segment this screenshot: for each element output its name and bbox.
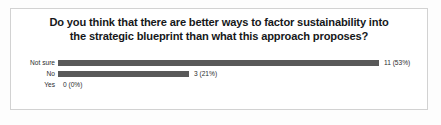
bar-track-no: 3 (21%) — [58, 68, 427, 79]
bar-value-not-sure: 11 (53%) — [384, 57, 410, 68]
bar-value-no: 3 (21%) — [194, 68, 217, 79]
bar-row: Yes 0 (0%) — [11, 79, 427, 90]
category-label-yes: Yes — [11, 79, 55, 90]
bar-no — [58, 71, 189, 77]
bar-row: Not sure 11 (53%) — [11, 57, 427, 68]
bar-track-not-sure: 11 (53%) — [58, 57, 427, 68]
chart-title-line-2: the strategic blueprint than what this a… — [23, 30, 415, 44]
chart-title: Do you think that there are better ways … — [23, 16, 415, 43]
category-label-not-sure: Not sure — [11, 57, 55, 68]
plot-area: Not sure 11 (53%) No 3 (21%) Yes 0 (0%) — [11, 57, 427, 107]
bar-value-yes: 0 (0%) — [63, 79, 82, 90]
category-label-no: No — [11, 68, 55, 79]
bar-track-yes: 0 (0%) — [58, 79, 427, 90]
page-background: Do you think that there are better ways … — [0, 0, 441, 125]
chart-title-line-1: Do you think that there are better ways … — [23, 16, 415, 30]
chart-frame: Do you think that there are better ways … — [10, 8, 428, 110]
bar-row: No 3 (21%) — [11, 68, 427, 79]
bar-not-sure — [58, 60, 379, 66]
